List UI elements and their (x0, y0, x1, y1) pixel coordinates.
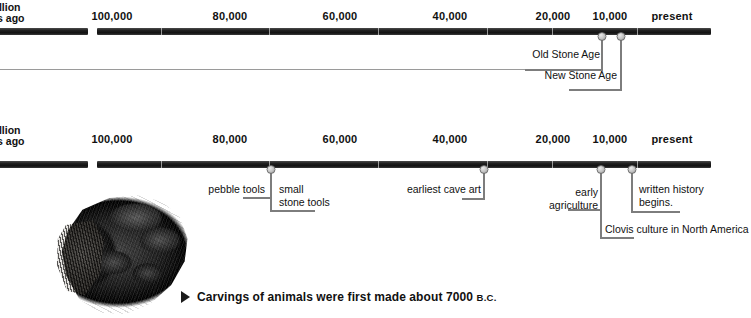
event-label-earliest-cave-art: earliest cave art (407, 183, 481, 196)
caption-main: Carvings of animals were first made abou… (197, 290, 476, 304)
timeline-bar-top-stub (0, 28, 88, 35)
leader-clovis-culture-horizontal (601, 237, 634, 239)
event-label-early-agriculture: early agriculture (549, 186, 598, 211)
triangle-right-icon (181, 291, 190, 303)
axis-tick-top-40000: 40,000 (433, 10, 468, 22)
carved-stone-artifact-photo (44, 186, 192, 318)
marker-old-stone-age[interactable] (598, 32, 607, 41)
leader-small-stone-tools-horizontal (271, 210, 315, 212)
bar-segment-divider (552, 161, 553, 168)
leader-early-agriculture-vertical (600, 171, 602, 239)
leader-new-stone-age-vertical (620, 38, 622, 91)
bar-segment-divider (378, 161, 379, 168)
bar-segment-divider (269, 28, 270, 35)
event-label-clovis-culture: Clovis culture in North America (605, 223, 749, 236)
marker-written-history-begins[interactable] (628, 165, 637, 174)
axis-tick-top-10000: 10,000 (593, 10, 628, 22)
bar-segment-divider (161, 161, 162, 168)
leader-written-history-horizontal (632, 211, 680, 213)
axis-tick-bottom-10000: 10,000 (593, 133, 628, 145)
caption-era: B.C. (476, 292, 496, 303)
timeline-bar-bottom (97, 161, 711, 168)
leader-written-history-vertical (631, 171, 633, 213)
leader-new-stone-age-horizontal (569, 89, 622, 91)
event-label-pebble-tools: pebble tools (208, 183, 265, 196)
axis-tick-bottom-40000: 40,000 (433, 133, 468, 145)
axis-tick-bottom-20000: 20,000 (536, 133, 571, 145)
event-label-written-history-begins: written history begins. (639, 183, 704, 208)
axis-tick-top-80000: 80,000 (213, 10, 248, 22)
bar-segment-divider (637, 28, 638, 35)
event-label-small-stone-tools: small stone tools (279, 183, 330, 208)
bar-segment-divider (552, 28, 553, 35)
leader-earliest-cave-art-vertical (483, 171, 485, 200)
prehistory-timeline-figure: illion rs ago 100,000 80,000 60,000 40,0… (0, 0, 751, 318)
leader-old-stone-age-extension (0, 69, 525, 70)
axis-tick-top-20000: 20,000 (536, 10, 571, 22)
bar-segment-divider (161, 28, 162, 35)
marker-earliest-cave-art[interactable] (480, 165, 489, 174)
axis-tick-bottom-80000: 80,000 (213, 133, 248, 145)
edge-label-top-line2: rs ago (0, 13, 25, 25)
leader-stone-tools-vertical (270, 171, 272, 212)
edge-label-bottom-line2: rs ago (0, 136, 25, 148)
caption-text: Carvings of animals were first made abou… (197, 290, 497, 304)
bar-segment-divider (637, 161, 638, 168)
timeline-bar-bottom-stub (0, 161, 88, 168)
axis-tick-top-60000: 60,000 (323, 10, 358, 22)
bar-segment-divider (378, 28, 379, 35)
marker-early-agriculture[interactable] (597, 165, 606, 174)
leader-pebble-tools-horizontal (243, 197, 272, 199)
axis-tick-top-100000: 100,000 (91, 10, 132, 22)
marker-pebble-and-stone-tools[interactable] (267, 165, 276, 174)
axis-tick-bottom-100000: 100,000 (91, 133, 132, 145)
figure-caption: Carvings of animals were first made abou… (181, 290, 497, 304)
leader-earliest-cave-art-horizontal (462, 198, 485, 200)
marker-new-stone-age[interactable] (617, 32, 626, 41)
axis-tick-bottom-60000: 60,000 (323, 133, 358, 145)
axis-tick-top-present: present (651, 10, 692, 22)
axis-tick-bottom-present: present (651, 133, 692, 145)
event-label-old-stone-age: Old Stone Age (532, 48, 600, 61)
leader-old-stone-age-vertical (601, 38, 603, 71)
event-label-new-stone-age: New Stone Age (545, 69, 617, 82)
bar-segment-divider (487, 28, 488, 35)
